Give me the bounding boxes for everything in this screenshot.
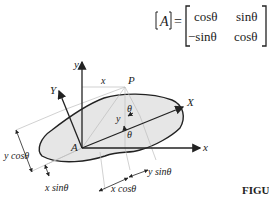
rigid-body-shape [39,94,183,162]
x-sin-dimension-arrow [45,165,49,176]
lhs-right-bracket [169,12,171,29]
angle-theta-upper: θ [127,103,132,114]
equals-sign: = [174,14,182,29]
matrix-cell-0-0: cosθ [194,9,218,24]
lhs-left-bracket [156,12,158,29]
x-cos-theta-label: x cosθ [110,183,136,194]
rotation-diagram: A = cosθ sinθ −sinθ cosθ y x Y X P A x y… [0,0,269,203]
x-axis-label: x [202,141,208,153]
lhs-symbol: A [159,14,169,29]
point-p-label: P [127,74,135,86]
y-cos-theta-label: y cosθ [3,150,29,161]
matrix-right-bracket [262,6,266,46]
matrix-cell-0-1: sinθ [236,9,257,24]
rotated-x-axis-label: X [186,96,195,108]
coord-x-label: x [100,75,106,86]
matrix-cell-1-0: −sinθ [188,29,217,44]
figure-caption: FIGU [242,184,269,196]
angle-theta-lower: θ [127,129,132,140]
coord-y-label: y [115,113,121,124]
point-a-label: A [70,141,78,153]
x-sin-theta-label: x sinθ [44,182,69,193]
matrix-cell-1-1: cosθ [234,29,258,44]
y-axis-label: y [73,58,79,70]
y-sin-dimension-arrow [129,170,148,177]
rotated-y-axis-label: Y [50,84,58,96]
transformation-matrix-equation: A = cosθ sinθ −sinθ cosθ [156,6,266,46]
y-sin-theta-label: y sinθ [147,166,172,177]
